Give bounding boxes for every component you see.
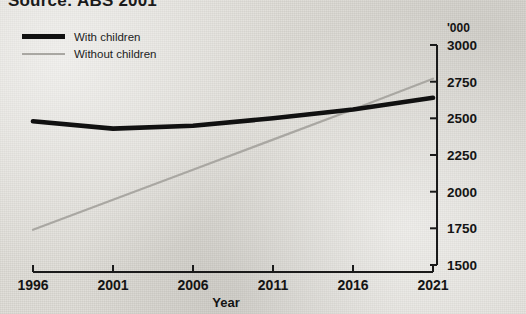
x-tick-label-2016: 2016 — [337, 277, 368, 293]
x-axis-title: Year — [212, 295, 239, 310]
x-tick-label-2021: 2021 — [417, 277, 448, 293]
y-tick-label-2000: 2000 — [447, 185, 477, 200]
x-tick-label-1996: 1996 — [17, 277, 48, 293]
chart-screenshot: Source: ABS 2001 With children Without c… — [0, 0, 526, 314]
x-tick-label-2011: 2011 — [258, 277, 289, 293]
x-tick-label-2001: 2001 — [97, 277, 128, 293]
y-tick-label-2750: 2750 — [447, 75, 477, 90]
y-tick-label-2250: 2250 — [447, 148, 477, 163]
y-tick-label-3000: 3000 — [447, 38, 477, 53]
x-tick-label-2006: 2006 — [177, 277, 208, 293]
y-tick-label-2500: 2500 — [447, 111, 477, 126]
y-tick-label-1500: 1500 — [447, 258, 477, 273]
series-line-without-children — [33, 79, 433, 230]
y-axis-unit-label: '000 — [447, 21, 470, 35]
y-tick-label-1750: 1750 — [447, 221, 477, 236]
chart-plot-area: '000 3000 2750 2500 2250 2000 1750 1500 … — [0, 0, 526, 314]
